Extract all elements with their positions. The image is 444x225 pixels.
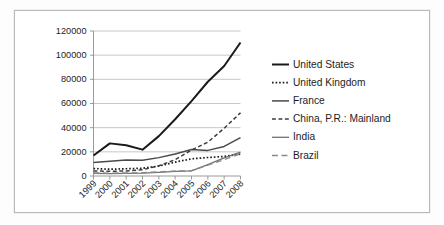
chart-figure: 020000400006000080000100000120000 199920… [0,0,444,225]
legend-item[interactable]: France [272,95,325,106]
x-axis-tick-label: 2002 [126,178,148,200]
x-axis-tick-label: 2006 [191,178,213,200]
legend-label: France [293,95,325,106]
x-axis-tick-label: 2001 [110,178,132,200]
line-chart: 020000400006000080000100000120000 199920… [0,0,444,225]
legend-item[interactable]: United States [272,59,354,70]
x-axis-tick-label: 2003 [142,178,164,200]
y-axis-tick-label: 120000 [56,26,87,36]
legend-label: China, P.R.: Mainland [293,113,391,124]
x-axis-tick-label: 2007 [208,178,230,200]
legend-label: United States [293,59,354,70]
legend-group: United StatesUnited KingdomFranceChina, … [272,59,391,161]
series-group [94,42,241,173]
x-axis-tick-label: 2004 [159,178,181,200]
series-line-china-p-r-mainland [94,113,241,171]
series-line-france [94,138,241,163]
y-axis-tick-label: 80000 [61,74,87,84]
x-axis-group: 1999200020012002200320042005200620072008 [77,176,246,200]
legend-item[interactable]: China, P.R.: Mainland [272,113,391,124]
legend-item[interactable]: Brazil [272,150,318,161]
series-line-united-states [94,42,241,155]
x-axis-tick-label: 2005 [175,178,197,200]
y-axis-tick-label: 60000 [61,98,87,108]
legend-label: India [293,131,315,142]
gridlines-group [94,31,241,176]
y-axis-group: 020000400006000080000100000120000 [56,26,94,181]
legend-label: Brazil [293,150,318,161]
legend-item[interactable]: United Kingdom [272,77,366,88]
legend-label: United Kingdom [293,77,366,88]
x-axis-tick-label: 2000 [93,178,115,200]
x-axis-tick-label: 1999 [77,178,99,200]
y-axis-tick-label: 100000 [56,50,87,60]
x-axis-tick-label: 2008 [224,178,246,200]
y-axis-tick-label: 0 [81,171,86,181]
y-axis-tick-label: 40000 [61,123,87,133]
y-axis-tick-label: 20000 [61,147,87,157]
legend-item[interactable]: India [272,131,315,142]
